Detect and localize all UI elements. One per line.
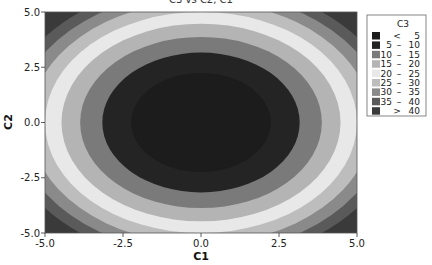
legend-swatch — [372, 88, 380, 96]
y-tick-label: 0.0 — [24, 117, 40, 128]
y-axis: -5.0-2.50.02.55.0 — [20, 7, 45, 239]
x-tick-label: 5.0 — [349, 238, 365, 249]
legend-label-operator: > — [393, 106, 401, 116]
legend-swatch — [372, 60, 380, 67]
y-tick-label: 5.0 — [24, 7, 40, 18]
legend-entry: >40 — [372, 106, 420, 116]
legend-swatch — [372, 107, 380, 115]
contour-band — [131, 73, 271, 172]
contour-chart: C3 vs C2, C1 -5.0-2.50.02.55.0 -5.0-2.50… — [0, 0, 432, 265]
legend-swatch — [372, 79, 380, 87]
x-axis-label: C1 — [193, 250, 209, 263]
legend-label-value: 40 — [409, 106, 421, 116]
x-tick-label: -5.0 — [35, 238, 55, 249]
legend-swatch — [372, 32, 380, 40]
x-tick-label: -2.5 — [113, 238, 133, 249]
x-tick-label: 0.0 — [193, 238, 209, 249]
chart-title: C3 vs C2, C1 — [169, 0, 233, 5]
legend-title: C3 — [397, 19, 409, 29]
legend-label-low: 35 — [381, 97, 392, 107]
x-axis: -5.0-2.50.02.55.0 — [35, 233, 365, 249]
y-axis-label: C2 — [2, 114, 15, 130]
y-tick-label: 2.5 — [24, 62, 40, 73]
y-tick-label: -5.0 — [20, 228, 40, 239]
legend-swatch — [372, 70, 380, 78]
legend-swatch — [372, 98, 380, 106]
legend-swatch — [372, 41, 380, 49]
legend: C3 <55–1010–1515–2020–2525–3030–3535–40>… — [367, 15, 426, 116]
y-tick-label: -2.5 — [20, 172, 40, 183]
x-tick-label: 2.5 — [271, 238, 287, 249]
plot-area — [4, 0, 399, 262]
legend-entries: <55–1010–1515–2020–2525–3030–3535–40>40 — [372, 31, 420, 116]
legend-swatch — [372, 51, 380, 59]
